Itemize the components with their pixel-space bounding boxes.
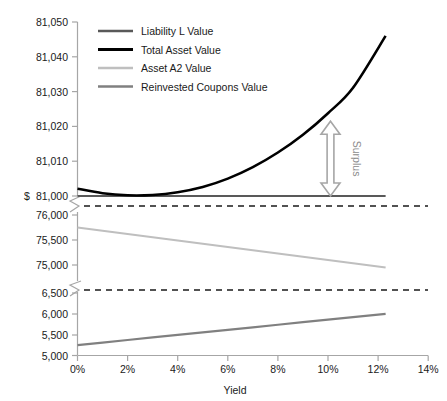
legend-label-total-asset: Total Asset Value (141, 44, 221, 56)
x-tick-label: 14% (418, 363, 439, 375)
legend-item-asset-a2: Asset A2 Value (98, 62, 212, 74)
y-tick-label: 81,000 (36, 190, 68, 202)
legend-label-asset-a2: Asset A2 Value (141, 62, 212, 74)
y-tick-label: 5,000 (42, 350, 68, 362)
y-tick-label: 81,020 (36, 120, 68, 132)
surplus-double-arrow-icon (321, 121, 340, 196)
axis-break-zigzag-lower (70, 281, 81, 296)
x-tick-label: 10% (317, 363, 338, 375)
y-tick-label: 81,010 (36, 155, 68, 167)
y-tick-marks (72, 22, 78, 356)
x-tick-labels: 0% 2% 4% 6% 8% 10% 12% 14% (70, 363, 439, 375)
x-tick-marks (78, 356, 429, 362)
x-tick-label: 4% (170, 363, 185, 375)
series-line-total-asset-value (78, 36, 386, 196)
broken-axis-line-chart: 81,050 81,040 81,030 81,020 81,010 81,00… (0, 0, 447, 401)
y-tick-label: 6,000 (42, 308, 68, 320)
x-tick-label: 6% (220, 363, 235, 375)
x-tick-label: 8% (270, 363, 285, 375)
legend-item-total-asset: Total Asset Value (98, 44, 221, 56)
legend: Liability L Value Total Asset Value Asse… (98, 25, 268, 93)
legend-label-liability: Liability L Value (141, 25, 214, 37)
y-tick-label: 5,500 (42, 329, 68, 341)
legend-label-reinvested: Reinvested Coupons Value (141, 81, 268, 93)
x-tick-label: 0% (70, 363, 85, 375)
x-tick-label: 2% (120, 363, 135, 375)
y-tick-label: 81,050 (36, 16, 68, 28)
axis-break-zigzag-upper (70, 196, 81, 212)
y-tick-label: 75,000 (36, 259, 68, 271)
y-axis-currency-symbol: $ (24, 190, 30, 202)
y-tick-labels-top: 81,050 81,040 81,030 81,020 81,010 81,00… (36, 16, 68, 202)
axis-lines (78, 22, 429, 356)
y-tick-labels-bottom: 6,500 6,000 5,500 5,000 (42, 287, 68, 362)
y-tick-label: 6,500 (42, 287, 68, 299)
y-tick-label: 76,000 (36, 209, 68, 221)
x-axis-title: Yield (224, 384, 247, 396)
axis-break-markers (70, 196, 428, 296)
surplus-annotation-label: Surplus (351, 141, 363, 177)
legend-item-reinvested: Reinvested Coupons Value (98, 81, 268, 93)
legend-item-liability: Liability L Value (98, 25, 214, 37)
surplus-annotation: Surplus (321, 121, 363, 196)
series-line-asset-a2-value (78, 228, 386, 268)
series-line-reinvested-coupons-value (78, 314, 386, 345)
y-tick-label: 81,040 (36, 51, 68, 63)
y-tick-labels-middle: 76,000 75,500 75,000 (36, 209, 68, 271)
y-tick-label: 75,500 (36, 234, 68, 246)
chart-container: 81,050 81,040 81,030 81,020 81,010 81,00… (0, 0, 447, 401)
x-tick-label: 12% (368, 363, 389, 375)
y-tick-label: 81,030 (36, 86, 68, 98)
